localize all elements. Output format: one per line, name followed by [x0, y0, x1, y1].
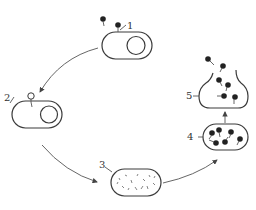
lytic-cycle-diagram: 1 2 3 4 5: [0, 0, 256, 210]
stage-3-cell: [105, 167, 161, 196]
stage-label-1: 1: [127, 21, 133, 31]
stage-5-cell: [193, 56, 248, 108]
stage-label-5: 5: [186, 91, 192, 101]
stage-label-2: 2: [4, 93, 10, 103]
stage-label-3: 3: [99, 160, 105, 170]
arrow-2-to-3: [42, 145, 97, 182]
stage-4-cell: [198, 124, 248, 150]
arrow-1-to-2: [40, 48, 98, 92]
arrow-3-to-4: [163, 160, 217, 183]
diagram-canvas: [0, 0, 256, 210]
stage-2-cell: [10, 93, 62, 128]
stage-label-4: 4: [187, 132, 193, 142]
